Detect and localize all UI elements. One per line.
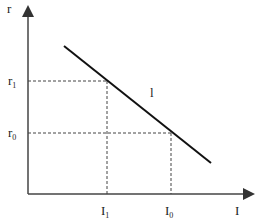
x-tick-i0: I0 [165,203,173,220]
x-tick-i1: I1 [101,203,109,220]
line-l [64,46,211,163]
diagram-canvas: r I l r1 r0 I1 I0 [0,0,257,223]
y-tick-r0: r0 [8,125,16,142]
y-tick-r1: r1 [8,73,16,90]
line-label: l [150,85,154,100]
x-axis-label: I [235,203,239,218]
y-axis-label: r [7,1,12,16]
